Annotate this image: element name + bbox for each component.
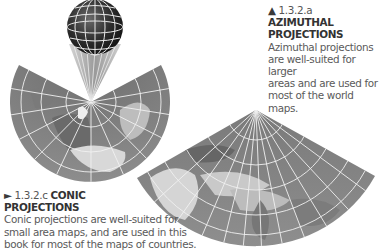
azimuthal-caption-heading: ▲ 1.3.2.a AZIMUTHAL xyxy=(268,4,380,28)
globe-icon xyxy=(67,0,123,55)
conic-caption: ► 1.3.2.c CONIC PROJECTIONS Conic projec… xyxy=(4,189,204,250)
triangle-up-icon: ▲ xyxy=(268,4,276,16)
caption-body-line: book for most of the maps of countries. xyxy=(4,238,204,250)
caption-body-line: small area maps, and are used in this xyxy=(4,226,204,238)
figure-number: 1.3.2.a xyxy=(279,4,313,16)
caption-body-line: Conic projections are well-suited for xyxy=(4,213,204,225)
caption-title-line2: PROJECTIONS xyxy=(268,28,380,40)
caption-title: CONIC xyxy=(51,189,86,201)
caption-title-line2: PROJECTIONS xyxy=(4,201,204,213)
caption-title: AZIMUTHAL xyxy=(268,16,334,28)
figure-number: 1.3.2.c xyxy=(15,189,48,201)
azimuthal-caption: ▲ 1.3.2.a AZIMUTHAL PROJECTIONS Azimutha… xyxy=(268,4,380,114)
caption-body-line: are well-suited for larger xyxy=(268,53,380,77)
caption-body-line: areas and are used for xyxy=(268,77,380,89)
caption-body-line: Azimuthal projections xyxy=(268,41,380,53)
conic-caption-heading: ► 1.3.2.c CONIC xyxy=(4,189,204,201)
triangle-right-icon: ► xyxy=(4,189,12,201)
caption-body-line: most of the world maps. xyxy=(268,89,380,113)
